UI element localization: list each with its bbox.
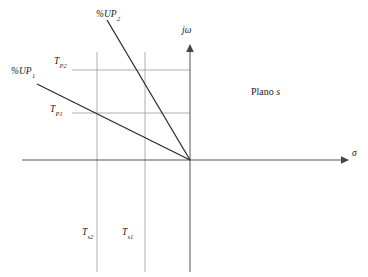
label-real-axis: σ (352, 149, 357, 159)
label-imaginary-axis: jω (182, 26, 191, 36)
label-ts2-text: T (82, 227, 87, 237)
label-peak-time-1: TP1 (50, 105, 63, 115)
label-tp1-text: T (50, 104, 55, 114)
label-jw-text: jω (182, 25, 191, 35)
label-percent-up2: %UP2 (96, 10, 120, 20)
label-sigma-text: σ (352, 148, 357, 158)
label-ts1-text: T (122, 227, 127, 237)
label-up1-subscript: 1 (32, 72, 35, 79)
label-up2-subscript: 2 (117, 15, 120, 22)
label-s-plane: Plano s (251, 87, 280, 97)
label-ts2-subscript: s2 (88, 233, 94, 240)
real-axis-arrow-icon (341, 156, 349, 164)
imaginary-axis-arrow-icon (186, 44, 194, 52)
label-tp1-subscript: P1 (56, 110, 63, 117)
label-up2-text: %UP (96, 9, 117, 19)
label-plane-symbol: s (276, 86, 280, 97)
figure-canvas: %UP2 %UP1 TP2 TP1 Ts2 Ts1 jω σ Plano s (0, 0, 368, 277)
label-settling-time-2: Ts2 (82, 228, 93, 238)
label-plane-prefix: Plano (251, 86, 276, 97)
label-up1-text: %UP (11, 66, 32, 76)
label-settling-time-1: Ts1 (122, 228, 133, 238)
s-plane-diagram (0, 0, 368, 277)
label-tp2-subscript: P2 (60, 62, 67, 69)
label-tp2-text: T (54, 56, 59, 66)
label-percent-up1: %UP1 (11, 67, 35, 77)
label-peak-time-2: TP2 (54, 57, 67, 67)
label-ts1-subscript: s1 (128, 233, 134, 240)
